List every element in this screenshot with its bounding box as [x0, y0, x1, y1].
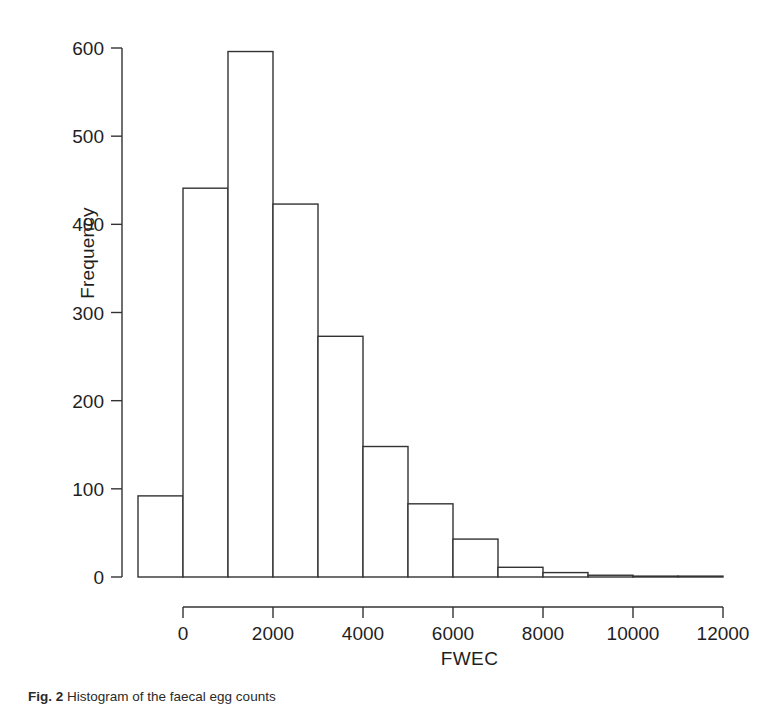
x-axis-tick-label: 4000: [342, 623, 384, 640]
y-axis-tick-label: 600: [72, 38, 104, 59]
histogram-bar: [543, 573, 588, 577]
x-axis-title-text: FWEC: [441, 648, 499, 670]
histogram-bar: [498, 567, 543, 577]
histogram-bar: [228, 52, 273, 577]
x-axis-tick-label: 12000: [697, 623, 750, 640]
histogram-bar: [273, 204, 318, 577]
histogram-bars: [138, 52, 723, 577]
x-axis-tick-label: 6000: [432, 623, 474, 640]
x-axis: 020004000600080001000012000: [178, 607, 750, 640]
y-axis-title: Frequency: [71, 183, 105, 323]
figure-caption-label: Fig. 2: [28, 689, 63, 704]
histogram-bar: [453, 539, 498, 577]
histogram-bar: [318, 336, 363, 577]
y-axis-tick-label: 500: [72, 126, 104, 147]
x-axis-tick-label: 10000: [607, 623, 660, 640]
histogram-bar: [633, 576, 678, 577]
histogram-bar: [138, 496, 183, 577]
figure-caption: Fig. 2 Histogram of the faecal egg count…: [28, 689, 768, 709]
histogram-bar: [678, 576, 723, 577]
y-axis-tick-label: 100: [72, 479, 104, 500]
histogram-bar: [363, 447, 408, 577]
histogram-plot-svg: 0100200300400500600 02000400060008000100…: [0, 0, 781, 640]
histogram-bar: [588, 575, 633, 577]
figure-caption-text: Histogram of the faecal egg counts: [67, 689, 276, 704]
histogram-figure: 0100200300400500600 02000400060008000100…: [0, 0, 781, 709]
x-axis-tick-label: 0: [178, 623, 189, 640]
x-axis-title: FWEC: [0, 648, 781, 670]
plot-area: 0100200300400500600 02000400060008000100…: [0, 0, 781, 640]
x-axis-tick-label: 2000: [252, 623, 294, 640]
y-axis-tick-label: 0: [93, 567, 104, 588]
histogram-bar: [408, 504, 453, 577]
histogram-bar: [183, 188, 228, 577]
x-axis-tick-label: 8000: [522, 623, 564, 640]
y-axis-tick-label: 200: [72, 391, 104, 412]
